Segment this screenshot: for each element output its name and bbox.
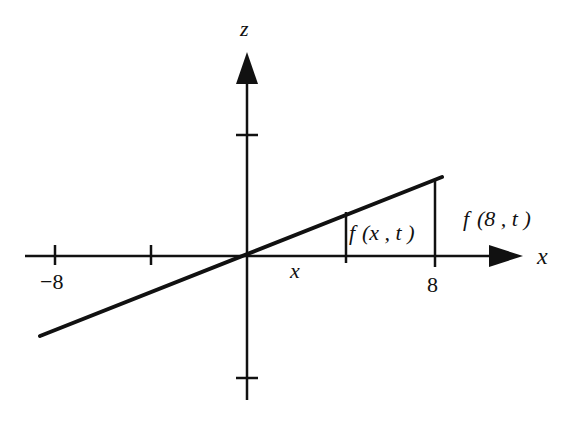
z-axis-label: z — [239, 16, 249, 41]
diagram-canvas: z x −8 8 x f (x , t ) f (8 , t ) — [0, 0, 574, 431]
f8-label-args: (8 , t ) — [477, 206, 531, 231]
tick-label-8: 8 — [427, 272, 438, 297]
x-axis-arrow-icon — [489, 245, 523, 267]
tick-label-neg8: −8 — [40, 269, 63, 294]
x-axis-label: x — [536, 243, 548, 269]
tick-label-x: x — [289, 258, 300, 283]
f8-label-f: f — [463, 206, 472, 231]
z-axis-arrow-icon — [236, 52, 258, 84]
fx-label-args: (x , t ) — [362, 220, 415, 245]
fx-label-f: f — [349, 220, 358, 245]
